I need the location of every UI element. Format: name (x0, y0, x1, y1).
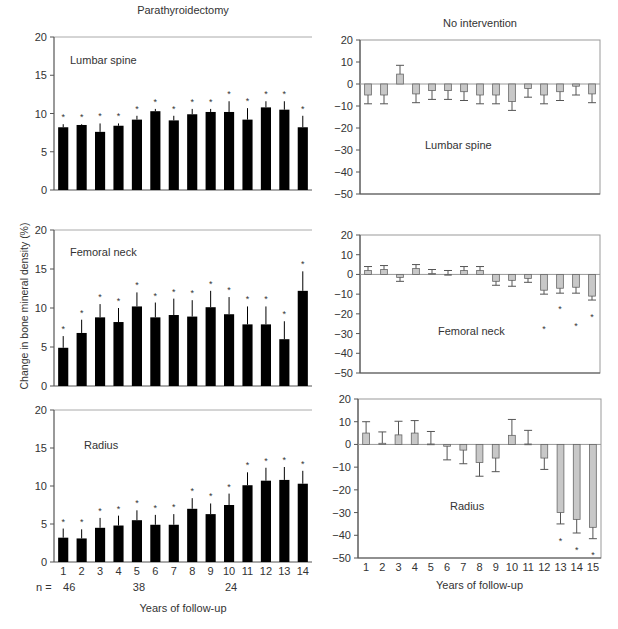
plot-frame (360, 40, 600, 194)
bar (557, 274, 564, 288)
significance-asterisk: * (61, 112, 65, 122)
x-axis-label: Years of follow-up (139, 602, 226, 614)
bar (397, 274, 404, 277)
y-tick-label: 15 (35, 69, 47, 81)
bar (298, 291, 308, 386)
bar (298, 127, 308, 190)
bar (169, 525, 179, 562)
bar (206, 112, 216, 190)
y-tick-label: −10 (334, 100, 353, 112)
bar (169, 120, 179, 190)
significance-asterisk: * (591, 550, 595, 560)
x-tick-label: 7 (171, 565, 177, 577)
bar (279, 110, 289, 190)
x-tick-label: 13 (554, 561, 566, 573)
bar (95, 132, 105, 190)
significance-asterisk: * (135, 280, 139, 290)
significance-asterisk: * (98, 292, 102, 302)
bar (150, 317, 160, 386)
significance-asterisk: * (574, 321, 578, 331)
significance-asterisk: * (154, 291, 158, 301)
y-tick-label: 5 (41, 341, 47, 353)
significance-asterisk: * (575, 545, 579, 555)
y-tick-label: 10 (341, 249, 353, 261)
x-tick-label: 11 (242, 565, 253, 577)
x-tick-label: 10 (506, 561, 518, 573)
bar (589, 274, 596, 296)
y-tick-label: 5 (41, 146, 47, 158)
bar (557, 444, 564, 512)
significance-asterisk: * (559, 536, 563, 546)
bar (95, 528, 105, 562)
bar (58, 127, 68, 190)
bar (444, 444, 451, 446)
plot-frame (358, 399, 601, 558)
bar (477, 84, 484, 95)
y-tick-label: 20 (341, 229, 353, 241)
bar (242, 485, 252, 562)
bar (77, 125, 87, 190)
bar (573, 444, 580, 519)
y-tick-label: 0 (41, 556, 47, 568)
y-tick-label: −50 (334, 367, 353, 379)
x-axis-label: Years of follow-up (436, 579, 523, 591)
significance-asterisk: * (246, 96, 250, 106)
bar (413, 269, 420, 275)
bar (492, 444, 499, 458)
bar (427, 444, 434, 445)
bar (242, 120, 252, 190)
significance-asterisk: * (227, 89, 231, 99)
x-tick-label: 2 (79, 565, 85, 577)
n-value: 24 (225, 581, 237, 593)
x-tick-label: 14 (297, 565, 309, 577)
bar (77, 333, 87, 386)
y-tick-label: −10 (334, 288, 353, 300)
y-tick-label: 5 (41, 518, 47, 530)
bar (509, 84, 516, 102)
x-tick-label: 6 (152, 565, 158, 577)
bar (150, 525, 160, 562)
y-tick-label: 0 (347, 78, 353, 90)
y-tick-label: 0 (41, 380, 47, 392)
significance-asterisk: * (301, 259, 305, 269)
bar (187, 114, 197, 190)
bar (395, 435, 402, 445)
y-tick-label: −40 (334, 347, 353, 359)
significance-asterisk: * (135, 498, 139, 508)
bar (132, 120, 142, 190)
bar (461, 270, 468, 274)
y-tick-label: 20 (35, 224, 47, 236)
bar (525, 84, 532, 88)
significance-asterisk: * (246, 294, 250, 304)
bar (525, 444, 532, 445)
bar (95, 317, 105, 386)
bar (573, 274, 580, 287)
significance-asterisk: * (117, 296, 121, 306)
significance-asterisk: * (61, 324, 65, 334)
y-tick-label: −30 (332, 507, 351, 519)
bar (187, 317, 197, 386)
significance-asterisk: * (209, 97, 213, 107)
panel-title: Femoral neck (70, 246, 137, 258)
bar (509, 274, 516, 280)
y-tick-label: −20 (334, 308, 353, 320)
significance-asterisk: * (264, 89, 268, 99)
bar (413, 84, 420, 94)
bar (206, 307, 216, 386)
significance-asterisk: * (264, 456, 268, 466)
bar (460, 444, 467, 450)
significance-asterisk: * (117, 504, 121, 514)
significance-asterisk: * (283, 309, 287, 319)
significance-asterisk: * (283, 89, 287, 99)
bar (242, 324, 252, 386)
y-tick-label: 15 (35, 263, 47, 275)
significance-asterisk: * (264, 294, 268, 304)
bar (429, 273, 436, 274)
bar (279, 339, 289, 386)
x-tick-label: 1 (363, 561, 369, 573)
bar (589, 444, 596, 527)
bar (493, 84, 500, 95)
significance-asterisk: * (172, 287, 176, 297)
bar (224, 505, 234, 562)
bar (477, 270, 484, 274)
